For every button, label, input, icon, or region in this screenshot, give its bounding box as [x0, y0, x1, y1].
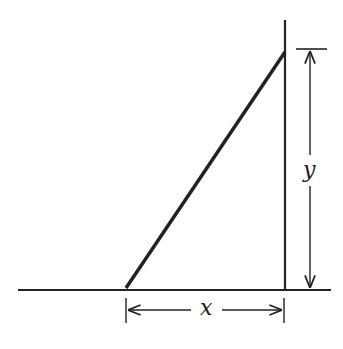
x-label: x — [197, 297, 215, 319]
ladder-diagram: y x — [0, 0, 343, 349]
ladder-line — [126, 52, 285, 288]
diagram-canvas — [0, 0, 343, 349]
y-label: y — [300, 159, 318, 181]
